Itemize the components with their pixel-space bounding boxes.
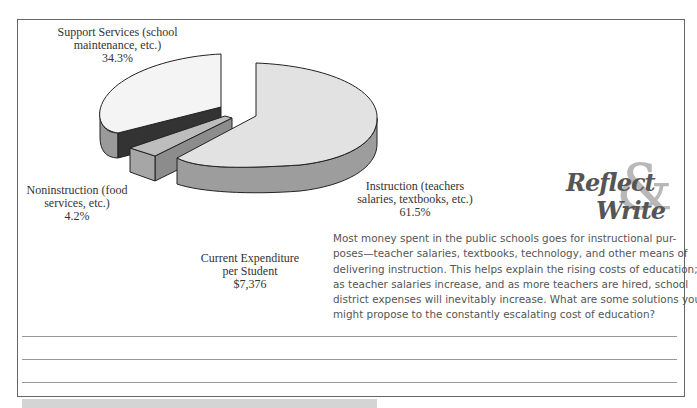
logo-word-reflect: Reflect	[566, 168, 655, 197]
reflection-prompt: Most money spent in the public schools g…	[333, 231, 678, 323]
prompt-line: Most money spent in the public schools g…	[333, 231, 678, 246]
writing-line-2[interactable]	[22, 359, 677, 360]
writing-line-1[interactable]	[22, 336, 677, 337]
label-percent: 61.5%	[350, 206, 480, 219]
label-amount: $7,376	[190, 278, 310, 291]
label-support-services: Support Services (school maintenance, et…	[35, 26, 200, 65]
label-noninstruction: Noninstruction (food services, etc.) 4.2…	[22, 184, 132, 223]
logo-word-write: Write	[596, 196, 665, 225]
label-current-expenditure: Current Expenditure per Student $7,376	[190, 252, 310, 291]
prompt-line: might propose to the constantly escalati…	[333, 307, 678, 322]
reflect-and-write-logo: & Reflect Write	[566, 162, 686, 228]
prompt-line: district expenses will inevitably increa…	[333, 292, 678, 307]
prompt-line: delivering instruction. This helps expla…	[333, 262, 678, 277]
prompt-line: poses—teacher salaries, textbooks, techn…	[333, 246, 678, 261]
label-percent: 34.3%	[35, 52, 200, 65]
writing-line-3[interactable]	[22, 382, 677, 383]
label-instruction: Instruction (teachers salaries, textbook…	[350, 180, 480, 219]
prompt-line: as teacher salaries increase, and as mor…	[333, 277, 678, 292]
label-percent: 4.2%	[22, 210, 132, 223]
